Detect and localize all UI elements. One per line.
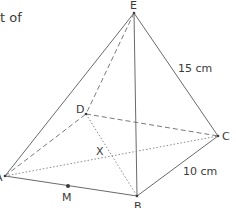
point-E <box>133 12 136 15</box>
pyramid-diagram: t of E D C X A M B 15 cm 10 cm <box>0 0 236 208</box>
point-A <box>4 175 7 178</box>
measure-EC: 15 cm <box>178 62 212 75</box>
diagonal-DB <box>86 114 137 196</box>
label-B: B <box>134 200 142 208</box>
hidden-edges <box>5 13 218 176</box>
edge-AD <box>5 114 86 176</box>
label-A: A <box>0 171 3 184</box>
edge-ED <box>86 13 134 114</box>
diagonals <box>5 114 218 196</box>
text-fragment: t of <box>0 10 22 25</box>
edge-EA <box>5 13 134 176</box>
point-B <box>136 195 139 198</box>
label-C: C <box>222 130 230 143</box>
point-C <box>217 135 220 138</box>
point-D <box>85 113 88 116</box>
measure-BC: 10 cm <box>183 165 217 178</box>
point-M <box>66 184 70 188</box>
label-E: E <box>130 0 137 12</box>
edge-DC <box>86 114 218 136</box>
label-X: X <box>96 145 104 158</box>
label-M: M <box>62 191 72 204</box>
label-D: D <box>76 103 84 116</box>
edge-EB <box>134 13 137 196</box>
